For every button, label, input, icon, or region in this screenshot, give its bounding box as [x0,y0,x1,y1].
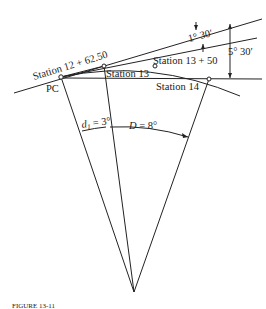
deflection-5-30-label: 5° 30′ [228,46,253,57]
curve-arc [61,71,240,96]
arrow-icon [182,133,188,138]
station-14-label: Station 14 [156,81,200,92]
tangent-line [14,19,262,93]
figure-caption: FIGURE 13-11 [12,302,56,309]
radius-pc [61,77,134,292]
station-pc-label: Station 12 + 62.50 [31,49,109,82]
D-label: D = 8° [128,120,157,131]
arrow-icon [194,25,198,30]
arrow-icon [228,73,232,78]
radius-station-13 [104,66,134,292]
d1-label: d1 = 3° [81,115,112,132]
station-13-label: Station 13 [106,68,149,79]
station-14-point-icon [207,77,211,81]
radius-station-14 [134,79,209,292]
arrow-icon [228,24,232,29]
arrow-icon [201,44,205,49]
chord-line-14 [61,78,262,79]
station-13-50-label: Station 13 + 50 [153,55,218,66]
curve-layout-diagram: Station 12 + 62.50 PC Station 13 Station… [0,0,266,309]
pc-point-icon [59,75,63,79]
pc-label: PC [46,83,59,94]
deflection-1-30-label: 1° 30′ [187,27,214,44]
